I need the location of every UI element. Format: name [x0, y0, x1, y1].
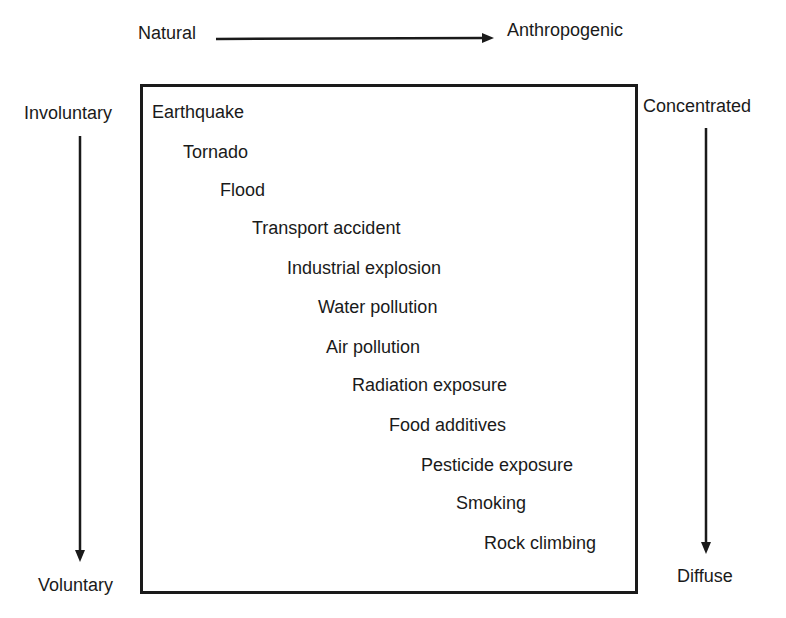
- hazard-item: Water pollution: [318, 298, 437, 316]
- arrow-natural-to-anthropogenic-icon: [216, 33, 494, 43]
- hazard-item: Earthquake: [152, 103, 244, 121]
- hazard-item: Flood: [220, 181, 265, 199]
- hazard-item: Pesticide exposure: [421, 456, 573, 474]
- hazard-item: Air pollution: [326, 338, 420, 356]
- hazard-item: Tornado: [183, 143, 248, 161]
- arrow-involuntary-to-voluntary-icon: [75, 136, 85, 562]
- hazard-item: Radiation exposure: [352, 376, 507, 394]
- hazard-item: Transport accident: [252, 219, 400, 237]
- arrow-concentrated-to-diffuse-icon: [701, 128, 711, 554]
- hazard-item: Rock climbing: [484, 534, 596, 552]
- hazard-item: Food additives: [389, 416, 506, 434]
- hazard-item: Industrial explosion: [287, 259, 441, 277]
- hazard-item: Smoking: [456, 494, 526, 512]
